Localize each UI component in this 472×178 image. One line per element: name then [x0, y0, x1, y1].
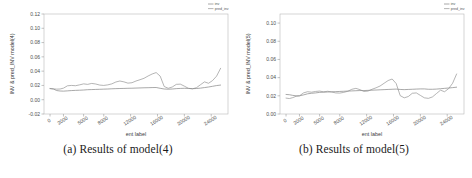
caption-model-4: (a) Results of model(4) [0, 143, 236, 155]
panel-model-4: -0.020.000.020.040.060.080.100.120200050… [0, 0, 236, 178]
x-axis-title: ent label [362, 131, 382, 137]
panel-model-5: 0.000.020.040.060.080.100200050008000120… [236, 0, 472, 178]
chart-model-5: 0.000.020.040.060.080.100200050008000120… [236, 0, 472, 144]
x-tick-label: 8000 [332, 115, 345, 126]
y-tick-label: 0.08 [266, 38, 276, 44]
y-axis-title: INV & pred_INV model(4) [9, 33, 15, 94]
figure-two-panel-line-charts: -0.020.000.020.040.060.080.100.120200050… [0, 0, 472, 178]
x-tick-label: 5000 [312, 115, 325, 126]
y-axis-title: INV & pred_INV model(5) [245, 33, 251, 94]
y-tick-label: 0.06 [30, 54, 40, 60]
x-tick-label: 12000 [358, 114, 373, 127]
y-tick-label: 0.00 [30, 97, 40, 103]
y-tick-label: 0.10 [266, 20, 276, 26]
y-tick-label: 0.00 [266, 111, 276, 117]
x-tick-label: 0 [46, 117, 52, 124]
y-tick-label: 0.04 [266, 74, 276, 80]
caption-model-5: (b) Results of model(5) [236, 143, 472, 155]
x-tick-label: 24000 [439, 114, 454, 127]
plot-frame [44, 14, 228, 114]
x-tick-label: 5000 [76, 115, 89, 126]
x-tick-label: 2000 [56, 115, 69, 126]
y-tick-label: -0.02 [29, 111, 41, 117]
legend-label-pred_inv: pred_inv [451, 7, 465, 11]
y-tick-label: 0.02 [30, 82, 40, 88]
series-line-pred_inv [286, 74, 457, 99]
chart-svg-model-4: -0.020.000.020.040.060.080.100.120200050… [0, 0, 236, 144]
chart-svg-model-5: 0.000.020.040.060.080.100200050008000120… [236, 0, 472, 144]
y-tick-label: 0.10 [30, 25, 40, 31]
x-tick-label: 0 [282, 117, 288, 124]
x-axis-title: ent label [126, 131, 146, 137]
y-tick-label: 0.04 [30, 68, 40, 74]
chart-model-4: -0.020.000.020.040.060.080.100.120200050… [0, 0, 236, 144]
y-tick-label: 0.02 [266, 93, 276, 99]
series-line-inv [286, 87, 457, 96]
plot-frame [280, 14, 464, 114]
x-tick-label: 20000 [176, 114, 191, 127]
x-tick-label: 20000 [412, 114, 427, 127]
y-tick-label: 0.06 [266, 56, 276, 62]
legend-label-inv: inv [451, 2, 456, 6]
legend-label-inv: inv [215, 2, 220, 6]
y-tick-label: 0.08 [30, 39, 40, 45]
x-tick-label: 24000 [203, 114, 218, 127]
y-tick-label: 0.12 [30, 11, 40, 17]
x-tick-label: 12000 [122, 114, 137, 127]
x-tick-label: 16000 [149, 114, 164, 127]
x-tick-label: 2000 [292, 115, 305, 126]
legend-label-pred_inv: pred_inv [215, 7, 229, 11]
series-line-pred_inv [50, 68, 221, 89]
x-tick-label: 16000 [385, 114, 400, 127]
x-tick-label: 8000 [96, 115, 109, 126]
